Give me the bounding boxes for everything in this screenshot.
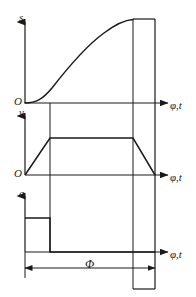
x-axis-label-2: φ,t — [170, 172, 182, 183]
panel-displacement — [25, 20, 168, 104]
panel-acceleration — [25, 196, 168, 252]
velocity-trapezoid — [25, 138, 155, 175]
a-axis-label: a — [19, 188, 25, 199]
panel-velocity — [25, 116, 168, 175]
construction-lines — [25, 19, 155, 289]
x-axis-label-1: φ,t — [170, 100, 182, 111]
origin-label-2: O — [14, 168, 22, 179]
displacement-curve — [25, 20, 133, 104]
dimension-phi-label: Φ — [85, 258, 94, 270]
acceleration-step — [25, 218, 155, 252]
x-axis-label-3: φ,t — [170, 249, 182, 260]
s-axis-label: s — [19, 12, 23, 23]
v-axis-label: v — [19, 107, 24, 118]
motion-diagram-figure — [0, 0, 196, 297]
